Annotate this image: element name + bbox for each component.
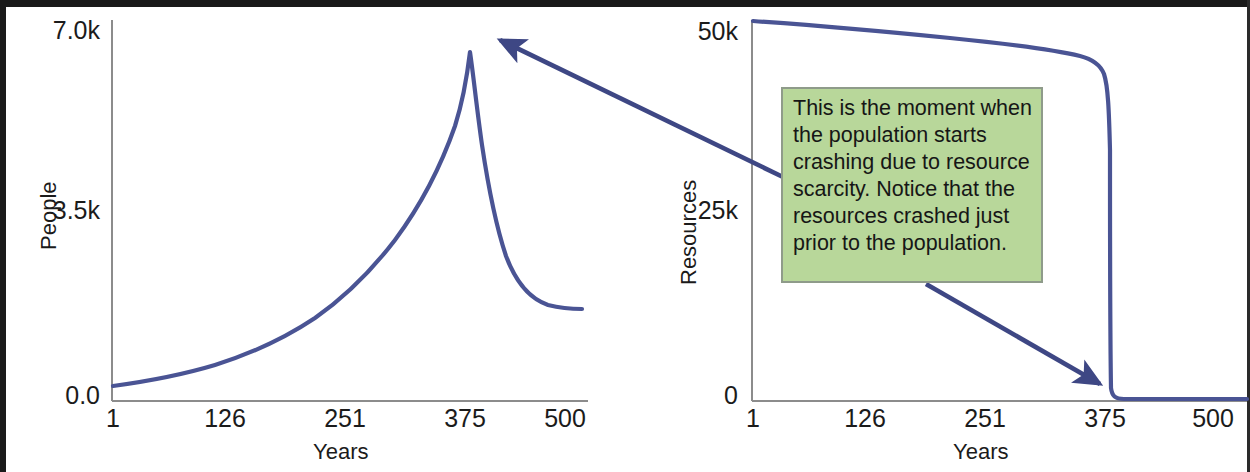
arrow-to-resource-crash [926, 284, 1100, 384]
population-xtick-251: 251 [312, 404, 378, 433]
population-xtick-375: 375 [432, 404, 498, 433]
annotation-callout-box: This is the moment when the population s… [781, 87, 1043, 283]
resources-xtick-375: 375 [1072, 404, 1138, 433]
resources-xtick-251: 251 [952, 404, 1018, 433]
resources-y-axis-title: Resources [676, 180, 702, 285]
arrow-to-population-peak [500, 40, 783, 177]
resources-ytick-bottom: 0 [658, 381, 738, 410]
resources-xtick-1: 1 [728, 404, 778, 433]
population-curve [113, 52, 582, 386]
population-xtick-500: 500 [532, 404, 598, 433]
population-x-axis-title: Years [313, 439, 368, 465]
charts-svg [0, 0, 1250, 472]
resources-ytick-top: 50k [658, 17, 738, 46]
resources-x-axis-title: Years [953, 439, 1008, 465]
population-chart [112, 20, 588, 401]
resources-xtick-500: 500 [1180, 404, 1246, 433]
population-xtick-126: 126 [192, 404, 258, 433]
population-ytick-top: 7.0k [18, 16, 100, 45]
resources-xtick-126: 126 [832, 404, 898, 433]
population-xtick-1: 1 [88, 404, 138, 433]
population-y-axis-title: People [36, 181, 62, 250]
figure-container: 7.0k 3.5k 0.0 People 1 126 251 375 500 Y… [0, 0, 1250, 472]
